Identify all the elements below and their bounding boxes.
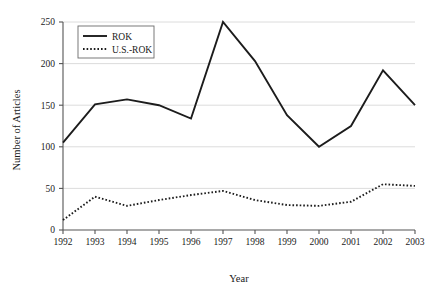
x-tick-label: 1997: [214, 237, 233, 247]
y-axis-title: Number of Articles: [11, 89, 22, 170]
line-chart: 050100150200250 199219931994199519961997…: [0, 0, 432, 291]
legend-label-rok: ROK: [112, 32, 132, 42]
legend-label-us-rok: U.S.-ROK: [112, 45, 152, 55]
y-tick-label: 100: [41, 142, 56, 152]
y-axis-ticks-group: 050100150200250: [41, 17, 63, 235]
x-tick-label: 1999: [278, 237, 297, 247]
x-tick-label: 1993: [86, 237, 105, 247]
x-tick-label: 2001: [342, 237, 361, 247]
y-tick-label: 200: [41, 59, 56, 69]
x-axis-ticks-group: 1992199319941995199619971998199920002001…: [54, 230, 425, 247]
series-line-us-rok: [63, 184, 415, 220]
x-tick-label: 2002: [374, 237, 393, 247]
x-tick-label: 1992: [54, 237, 73, 247]
x-tick-label: 2003: [406, 237, 425, 247]
x-tick-label: 1996: [182, 237, 201, 247]
x-tick-label: 1995: [150, 237, 169, 247]
y-tick-label: 0: [50, 225, 55, 235]
x-tick-label: 2000: [310, 237, 329, 247]
x-axis-title: Year: [229, 273, 249, 284]
x-tick-label: 1994: [118, 237, 137, 247]
chart-figure: 050100150200250 199219931994199519961997…: [0, 0, 432, 291]
y-tick-label: 50: [46, 184, 56, 194]
x-tick-label: 1998: [246, 237, 265, 247]
y-tick-label: 250: [41, 17, 56, 27]
y-tick-label: 150: [41, 101, 56, 111]
chart-legend[interactable]: ROK U.S.-ROK: [78, 26, 154, 58]
